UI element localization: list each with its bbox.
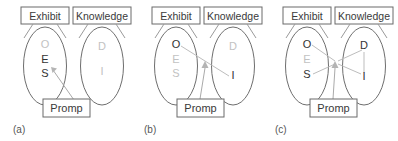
panel-a-prompt-box: Promp: [43, 99, 90, 117]
panel-a-prompt-line: [53, 70, 74, 100]
panel-b-exhibit-box: Exhibit: [152, 7, 200, 24]
panel-b-knowledge-node-0: D: [229, 40, 237, 52]
diagram-canvas: Exhibit Knowledge O E S D I: [0, 0, 398, 141]
panel-b-caption: (b): [144, 124, 156, 135]
panel-c-link-O-junction: [312, 45, 335, 61]
panel-c-knowledge-box: Knowledge: [335, 7, 393, 24]
panel-c-link-junction-I: [338, 64, 361, 74]
figure-root: Exhibit Knowledge O E S D I: [0, 0, 398, 141]
panel-b-prompt-box: Promp: [177, 99, 224, 117]
prompt-box-label: Promp: [317, 102, 349, 114]
panel-b-knowledge-node-1: I: [231, 69, 234, 81]
panel-a-exhibit-node-1: E: [41, 53, 48, 65]
panel-b-knowledge-box: Knowledge: [204, 7, 262, 24]
panel-c-exhibit-box: Exhibit: [283, 7, 331, 24]
panel-a-knowledge-node-0: D: [98, 40, 106, 52]
panel-b-exhibit-node-2: S: [172, 67, 179, 79]
panel-c-knowledge-node-1: I: [362, 70, 365, 82]
knowledge-box-label: Knowledge: [76, 10, 128, 22]
panel-c-knowledge-node-0: D: [360, 39, 368, 51]
panel-c-exhibit-node-2: S: [303, 68, 310, 80]
knowledge-stem-left: [210, 24, 219, 38]
knowledge-ellipse: [212, 27, 255, 105]
panel-c-prompt-arrowhead: [332, 61, 339, 68]
panel-c-exhibit-node-1: E: [303, 53, 310, 65]
panel-a-exhibit-box: Exhibit: [21, 7, 69, 24]
panel-c-link-junction-D: [338, 50, 362, 61]
knowledge-stem-right: [378, 24, 387, 38]
knowledge-box-label: Knowledge: [338, 10, 390, 22]
panel-c-prompt-line: [333, 68, 335, 99]
panel-a-exhibit-node-0: O: [41, 38, 50, 50]
prompt-box-label: Promp: [50, 102, 82, 114]
knowledge-stem-right: [116, 24, 125, 38]
panel-c-prompt-box: Promp: [310, 99, 357, 117]
panel-b-exhibit-node-0: O: [172, 38, 181, 50]
panel-c-caption: (c): [275, 124, 287, 135]
panel-b-prompt-line: [200, 68, 205, 99]
panel-c-link-S-junction: [313, 64, 335, 74]
exhibit-box-label: Exhibit: [160, 10, 192, 22]
exhibit-box-label: Exhibit: [291, 10, 323, 22]
panel-b-exhibit-node-1: E: [172, 53, 179, 65]
prompt-box-label: Promp: [184, 102, 216, 114]
knowledge-stem-left: [341, 24, 350, 38]
panel-a-knowledge-node-1: I: [100, 65, 103, 77]
panel-c: Exhibit Knowledge O E S D I: [275, 7, 393, 135]
knowledge-box-label: Knowledge: [207, 10, 259, 22]
panel-b: Exhibit Knowledge O E S D I Pro: [144, 7, 262, 135]
panel-a-caption: (a): [13, 124, 25, 135]
panel-a-knowledge-box: Knowledge: [73, 7, 131, 24]
knowledge-stem-right: [247, 24, 256, 38]
knowledge-stem-left: [79, 24, 88, 38]
exhibit-box-label: Exhibit: [29, 10, 61, 22]
panel-a: Exhibit Knowledge O E S D I: [13, 7, 131, 135]
panel-a-exhibit-node-2: S: [41, 67, 48, 79]
panel-c-exhibit-node-0: O: [303, 38, 312, 50]
